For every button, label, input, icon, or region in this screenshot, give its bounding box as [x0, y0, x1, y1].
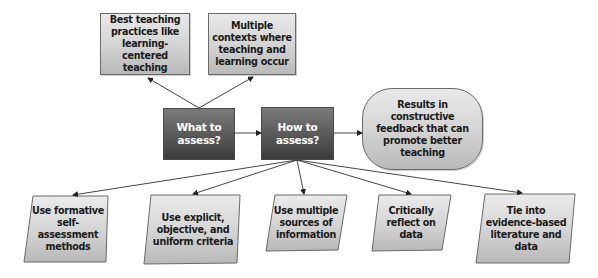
arrow-what-to-best-practices [148, 78, 199, 108]
results-box: Results in constructive feedback that ca… [362, 88, 483, 170]
explicit-criteria-label: Use explicit, objective, and uniform cri… [147, 212, 239, 248]
evidence-based-label: Tie into evidence-based literature and d… [480, 205, 572, 253]
multiple-sources-box: Use multiple sources of information [268, 195, 344, 251]
how-to-assess-box: How to assess? [261, 107, 334, 160]
arrow-how-to-explicit [193, 160, 297, 194]
best-practices-label: Best teaching practices like learning-ce… [101, 14, 189, 74]
assessment-diagram: Best teaching practices like learning-ce… [0, 0, 598, 278]
how-to-assess-label: How to assess? [262, 121, 333, 147]
what-to-assess-label: What to assess? [164, 121, 234, 147]
arrow-how-to-formative [73, 160, 297, 195]
reflect-box: Critically reflect on data [376, 195, 446, 251]
formative-box: Use formative self-assessment methods [28, 196, 108, 262]
what-to-assess-box: What to assess? [163, 108, 235, 160]
formative-label: Use formative self-assessment methods [28, 205, 108, 253]
reflect-label: Critically reflect on data [376, 205, 446, 241]
arrow-what-to-multiple-contexts [199, 77, 253, 108]
arrow-how-to-sources [297, 160, 304, 194]
results-label: Results in constructive feedback that ca… [363, 99, 482, 159]
explicit-criteria-box: Use explicit, objective, and uniform cri… [147, 195, 239, 264]
multiple-sources-label: Use multiple sources of information [268, 205, 344, 241]
best-practices-box: Best teaching practices like learning-ce… [100, 13, 190, 75]
multiple-contexts-label: Multiple contexts where teaching and lea… [209, 20, 295, 68]
evidence-based-box: Tie into evidence-based literature and d… [480, 194, 572, 263]
multiple-contexts-box: Multiple contexts where teaching and lea… [208, 13, 296, 75]
